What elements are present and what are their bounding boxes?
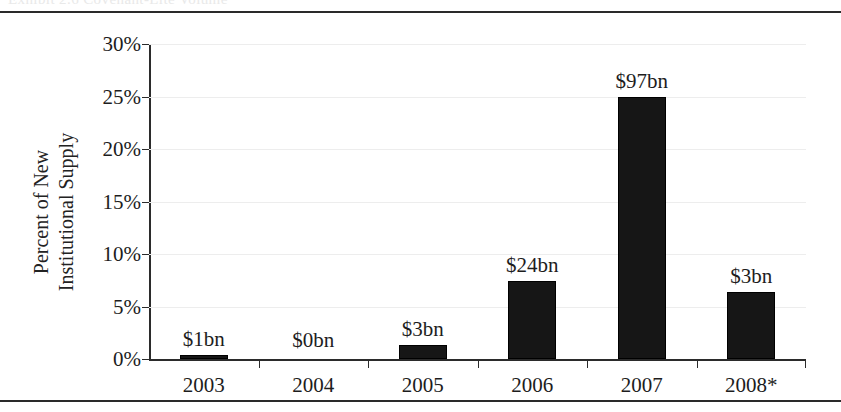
- y-tick-label: 15%: [51, 192, 141, 213]
- y-tick-mark: [142, 359, 149, 360]
- x-tick-label-2004: 2004: [253, 374, 373, 396]
- x-tick-label-2006: 2006: [472, 374, 592, 396]
- x-tick-label-2005: 2005: [363, 374, 483, 396]
- x-tick-label-2007: 2007: [582, 374, 702, 396]
- x-tick-label-2003: 2003: [144, 374, 264, 396]
- gridline: [149, 44, 806, 45]
- gridline: [149, 149, 806, 150]
- bar-value-label-2003: $1bn: [144, 329, 264, 350]
- y-tick-label: 0%: [51, 349, 141, 370]
- bar-value-label-2008: $3bn: [691, 266, 811, 287]
- bar-value-label-2007: $97bn: [582, 71, 702, 92]
- x-tick-mark: [805, 359, 806, 368]
- y-tick-mark: [142, 307, 149, 308]
- x-tick-mark: [587, 359, 588, 368]
- bar-value-label-2005: $3bn: [363, 319, 483, 340]
- y-tick-mark: [142, 202, 149, 203]
- gridline: [149, 307, 806, 308]
- x-tick-label-2008: 2008*: [691, 374, 811, 396]
- bar-value-label-2006: $24bn: [472, 255, 592, 276]
- bar-value-label-2004: $0bn: [253, 330, 373, 351]
- x-tick-mark: [368, 359, 369, 368]
- y-tick-mark: [142, 149, 149, 150]
- y-tick-label: 30%: [51, 34, 141, 55]
- y-tick-mark: [142, 254, 149, 255]
- bar-2006: [508, 281, 556, 359]
- bar-2008: [727, 292, 775, 359]
- bar-chart-figure: Percent of New Institutional Supply 0%5%…: [0, 13, 841, 399]
- x-tick-mark: [697, 359, 698, 368]
- bar-2007: [618, 97, 666, 360]
- x-tick-mark: [478, 359, 479, 368]
- y-tick-label: 20%: [51, 139, 141, 160]
- gridline: [149, 202, 806, 203]
- y-tick-label: 5%: [51, 297, 141, 318]
- plot-area: 0%5%10%15%20%25%30% 20032004200520062007…: [149, 44, 806, 359]
- y-tick-mark: [142, 44, 149, 45]
- y-tick-label: 25%: [51, 87, 141, 108]
- x-tick-mark: [259, 359, 260, 368]
- y-tick-mark: [142, 97, 149, 98]
- clipped-exhibit-title: Exhibit 2.6 Covenant-Lite Volume: [8, 0, 228, 8]
- bar-2005: [399, 345, 447, 359]
- bar-2003: [180, 355, 228, 359]
- bottom-divider-rule: [0, 400, 841, 402]
- gridline: [149, 97, 806, 98]
- y-tick-label: 10%: [51, 244, 141, 265]
